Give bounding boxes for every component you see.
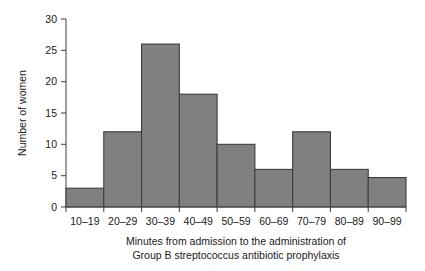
y-tick-label: 20 [45,75,57,87]
y-tick-label: 15 [45,107,57,119]
histogram-bar [66,188,104,207]
x-tick-label: 90–99 [373,215,402,227]
x-tick-label: 30–39 [146,215,175,227]
histogram-bar [255,169,293,207]
y-tick-label: 0 [51,201,57,213]
y-tick-label: 10 [45,138,57,150]
x-tick-label: 20–29 [108,215,137,227]
histogram-bar [142,44,180,207]
x-tick-label: 60–69 [259,215,288,227]
x-tick-label: 10–19 [70,215,99,227]
y-tick-label: 25 [45,44,57,56]
x-tick-label-group: 10–1920–2930–3940–4950–5960–6970–7980–89… [70,215,402,227]
x-tick-label: 50–59 [221,215,250,227]
x-axis-group: 10–1920–2930–3940–4950–5960–6970–7980–89… [66,207,406,227]
y-tick-label: 5 [51,169,57,181]
histogram-bar [330,169,368,207]
y-tick-group: 051015202530 [45,13,66,213]
histogram-bar [179,94,217,207]
y-tick-label: 30 [45,13,57,25]
y-axis-title: Number of women [16,70,28,156]
x-tick-group [66,207,406,212]
x-tick-label: 80–89 [335,215,364,227]
x-axis-title-line1: Minutes from admission to the administra… [126,235,346,247]
chart-svg: 051015202530 10–1920–2930–3940–4950–5960… [0,0,425,271]
histogram-bar [368,178,406,207]
x-tick-label: 40–49 [184,215,213,227]
y-axis-group: 051015202530 [45,13,66,213]
x-tick-label: 70–79 [297,215,326,227]
histogram-bar [104,132,142,207]
bar-group [66,44,406,207]
x-axis-title-line2: Group B streptococcus antibiotic prophyl… [132,249,339,261]
histogram-figure: 051015202530 10–1920–2930–3940–4950–5960… [0,0,425,271]
histogram-bar [293,132,331,207]
histogram-bar [217,144,255,207]
